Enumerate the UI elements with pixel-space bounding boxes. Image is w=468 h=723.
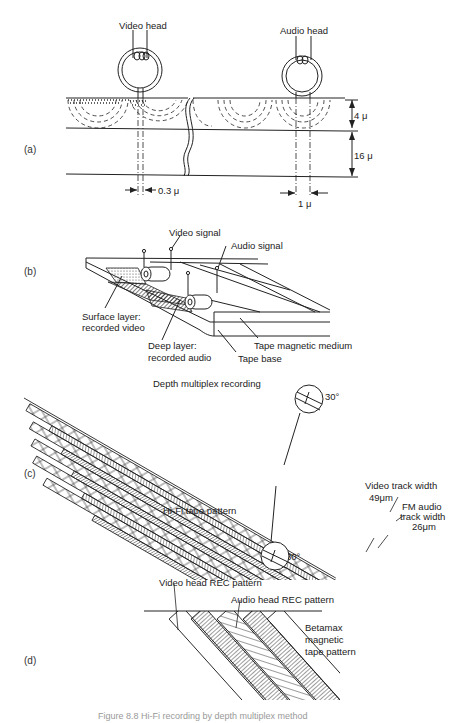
figure-caption: Figure 8.8 Hi-Fi recording by depth mult… xyxy=(98,711,308,721)
panel-d-diagram xyxy=(0,0,468,700)
